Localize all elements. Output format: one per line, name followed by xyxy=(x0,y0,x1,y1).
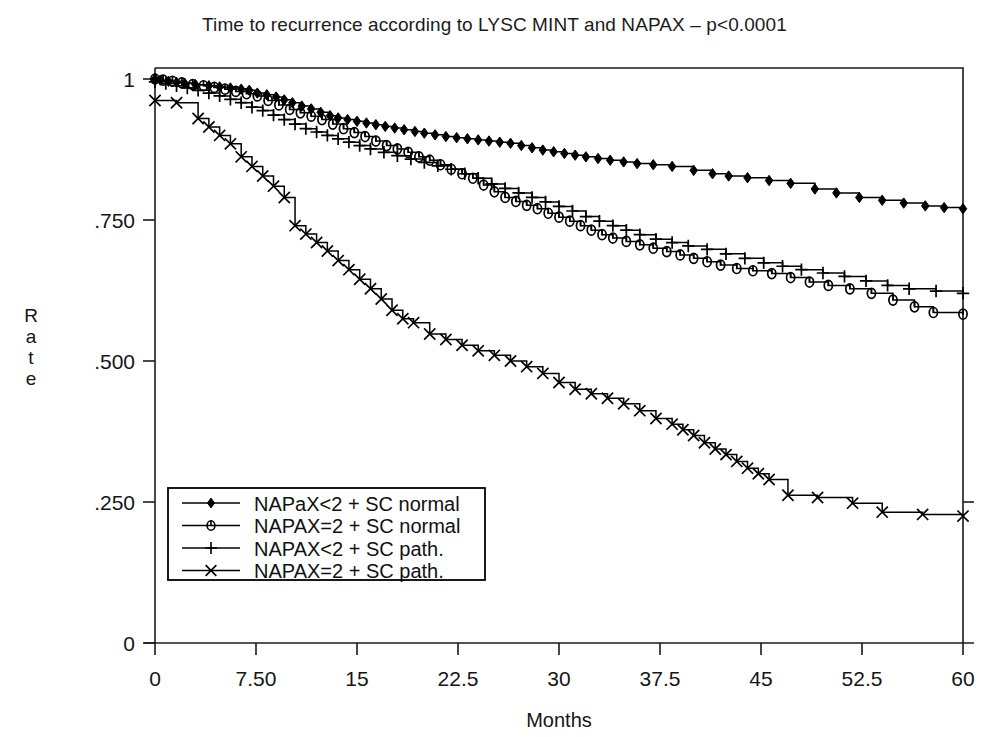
y-tick-label: 0 xyxy=(123,632,135,655)
x-tick-label: 30 xyxy=(547,667,570,690)
marker-diamond xyxy=(668,161,675,171)
marker-diamond xyxy=(507,138,514,148)
marker-diamond xyxy=(561,148,568,158)
marker-diamond xyxy=(539,145,546,155)
marker-diamond xyxy=(606,155,613,165)
marker-diamond xyxy=(453,132,460,142)
marker-diamond xyxy=(571,150,578,160)
marker-diamond xyxy=(650,160,657,170)
axis-labels-layer: 0.250.500.750107.501522.53037.54552.560M… xyxy=(94,68,975,731)
marker-plus xyxy=(364,143,376,155)
series-line xyxy=(155,82,963,294)
marker-plus xyxy=(776,260,788,272)
legend-label: NAPAX=2 + SC normal xyxy=(254,515,460,537)
marker-plus xyxy=(378,146,390,158)
marker-diamond xyxy=(363,118,370,128)
marker-plus xyxy=(321,129,333,141)
legend-label: NAPAX=2 + SC path. xyxy=(254,560,444,582)
marker-diamond xyxy=(900,198,907,208)
x-tick-label: 22.5 xyxy=(438,667,479,690)
marker-diamond xyxy=(400,125,407,135)
marker-diamond xyxy=(334,113,341,123)
marker-diamond xyxy=(787,178,794,188)
marker-plus xyxy=(224,93,236,105)
marker-diamond xyxy=(421,128,428,138)
series-0 xyxy=(151,74,966,214)
plot-area: NAPaX<2 + SC normalNAPAX=2 + SC normalNA… xyxy=(0,0,989,737)
marker-plus xyxy=(701,243,713,255)
marker-diamond xyxy=(811,184,818,194)
marker-diamond xyxy=(442,131,449,141)
marker-diamond xyxy=(496,137,503,147)
x-tick-label: 45 xyxy=(749,667,772,690)
x-tick-label: 7.50 xyxy=(236,667,277,690)
marker-diamond xyxy=(940,202,947,212)
marker-diamond xyxy=(353,116,360,126)
marker-diamond xyxy=(633,158,640,168)
y-tick-label: .250 xyxy=(94,491,135,514)
marker-plus xyxy=(332,133,344,145)
x-axis-title: Months xyxy=(526,709,592,731)
marker-diamond xyxy=(391,123,398,133)
legend-box: NAPaX<2 + SC normalNAPAX=2 + SC normalNA… xyxy=(168,488,485,582)
series-layer xyxy=(149,74,969,522)
x-tick-label: 37.5 xyxy=(640,667,681,690)
marker-diamond xyxy=(725,171,732,181)
legend-label: NAPAX<2 + SC path. xyxy=(254,538,444,560)
series-line xyxy=(155,100,963,516)
marker-diamond xyxy=(474,135,481,145)
x-tick-label: 60 xyxy=(951,667,974,690)
y-tick-label: 1 xyxy=(123,68,135,91)
marker-diamond xyxy=(485,136,492,146)
marker-diamond xyxy=(382,121,389,131)
marker-plus xyxy=(310,126,322,138)
marker-diamond xyxy=(550,147,557,157)
marker-diamond xyxy=(582,152,589,162)
marker-diamond xyxy=(518,140,525,150)
marker-plus xyxy=(203,87,215,99)
marker-diamond xyxy=(744,173,751,183)
marker-plus xyxy=(795,263,807,275)
marker-diamond xyxy=(765,175,772,185)
series-3 xyxy=(149,95,968,522)
marker-plus xyxy=(957,287,969,299)
x-tick-label: 0 xyxy=(149,667,161,690)
marker-diamond xyxy=(878,195,885,205)
marker-diamond xyxy=(528,143,535,153)
marker-plus xyxy=(682,240,694,252)
marker-diamond xyxy=(281,95,288,105)
marker-plus xyxy=(930,285,942,297)
marker-diamond xyxy=(594,153,601,163)
y-tick-label: .750 xyxy=(94,209,135,232)
marker-diamond xyxy=(372,119,379,129)
marker-plus xyxy=(903,283,915,295)
x-tick-label: 52.5 xyxy=(842,667,883,690)
marker-diamond xyxy=(922,201,929,211)
marker-diamond xyxy=(856,192,863,202)
marker-diamond xyxy=(431,130,438,140)
marker-diamond xyxy=(620,157,627,167)
marker-plus xyxy=(418,156,430,168)
legend-label: NAPaX<2 + SC normal xyxy=(254,493,460,515)
marker-diamond xyxy=(411,126,418,136)
marker-plus xyxy=(838,270,850,282)
chart-container: Time to recurrence according to LYSC MIN… xyxy=(0,0,989,737)
y-tick-label: .500 xyxy=(94,350,135,373)
marker-diamond xyxy=(464,134,471,144)
marker-plus xyxy=(817,267,829,279)
marker-plus xyxy=(257,104,269,116)
marker-diamond xyxy=(959,204,966,214)
x-tick-label: 15 xyxy=(345,667,368,690)
